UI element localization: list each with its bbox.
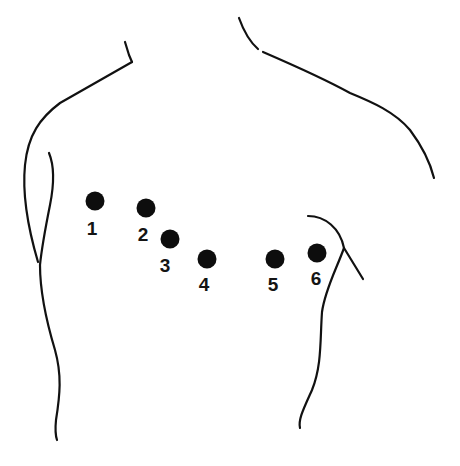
right-shoulder-outline <box>263 52 434 178</box>
electrode-1-label: 1 <box>87 219 98 238</box>
electrode-1-dot <box>86 192 105 211</box>
right-neck-line <box>239 18 258 49</box>
electrode-4-dot <box>198 250 217 269</box>
chest-outline-drawing <box>0 0 460 466</box>
electrode-5-dot <box>266 250 285 269</box>
electrode-2-dot <box>137 199 156 218</box>
electrode-6-label: 6 <box>311 269 322 288</box>
electrode-3-dot <box>161 230 180 249</box>
electrode-2-label: 2 <box>138 225 149 244</box>
electrode-5-label: 5 <box>268 275 279 294</box>
electrode-6-dot <box>308 244 327 263</box>
left-neck-line <box>125 42 132 62</box>
electrode-4-label: 4 <box>199 275 210 294</box>
left-armpit-line <box>40 153 60 440</box>
electrode-3-label: 3 <box>160 256 171 275</box>
right-torso-line <box>300 248 344 428</box>
chest-diagram: 1 2 3 4 5 6 <box>0 0 460 466</box>
left-shoulder-outline <box>24 62 132 262</box>
